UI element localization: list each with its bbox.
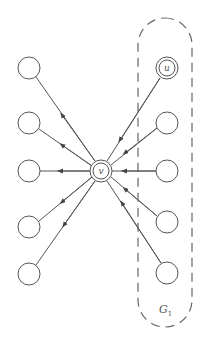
node-u-label: u <box>164 63 170 73</box>
node-left-2 <box>18 112 40 134</box>
node-right-3 <box>156 160 178 182</box>
node-right-4 <box>156 211 178 233</box>
node-v: v <box>90 160 112 182</box>
node-left-1 <box>18 57 40 79</box>
node-right-5 <box>156 262 178 284</box>
incoming-edges <box>107 78 161 263</box>
node-left-5 <box>18 263 40 285</box>
group-g1-label: G1 <box>159 303 172 318</box>
graph-diagram: G1 <box>0 0 206 348</box>
node-u: u <box>156 57 178 79</box>
node-v-label: v <box>98 166 103 176</box>
outgoing-edges <box>36 77 95 265</box>
node-left-3 <box>18 160 40 182</box>
node-right-2 <box>156 112 178 134</box>
node-left-4 <box>18 216 40 238</box>
right-nodes <box>156 112 178 284</box>
left-nodes <box>18 57 40 285</box>
